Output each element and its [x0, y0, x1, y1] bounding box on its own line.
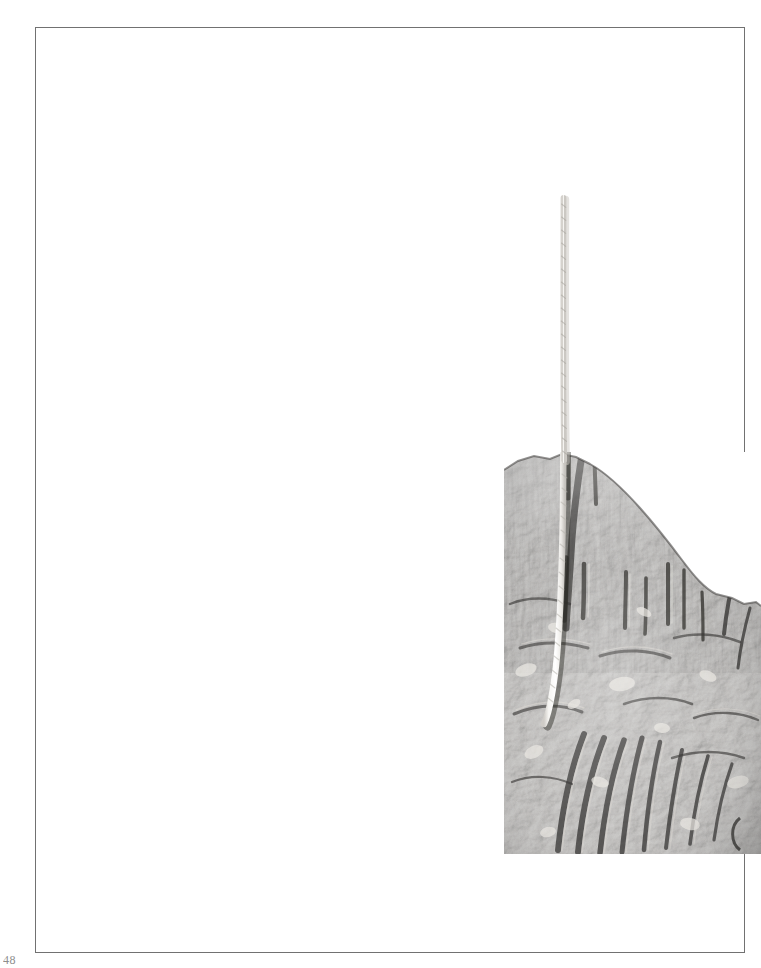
white-string-upper-segment [540, 190, 590, 460]
fossil-rock-specimen-photo [504, 452, 761, 854]
photo-canvas [504, 452, 761, 854]
plate-page: 48 [0, 0, 761, 968]
folio-number: 48 [3, 954, 16, 965]
